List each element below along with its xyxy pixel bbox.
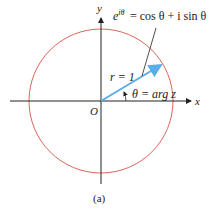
euler-lhs: eiθ: [113, 8, 125, 23]
x-axis-label: x: [194, 95, 200, 107]
angle-label: θ = arg z: [132, 87, 176, 101]
complex-plane-diagram: y x O eiθ = cos θ + i sin θ r = 1 θ = ar…: [0, 0, 216, 209]
origin-label: O: [90, 105, 98, 117]
y-axis-label: y: [96, 2, 102, 14]
euler-rhs: = cos θ + i sin θ: [130, 9, 207, 23]
caption: (a): [93, 192, 106, 205]
angle-arc: [124, 92, 126, 101]
radius-label: r = 1: [110, 70, 135, 84]
